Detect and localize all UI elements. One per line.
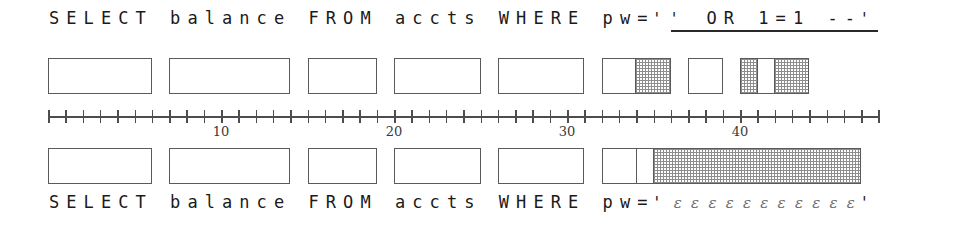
token-cell-plain	[309, 59, 376, 93]
ruler-tick-17	[342, 110, 344, 123]
token-from	[308, 148, 377, 184]
epsilon-glyph: ε	[674, 194, 682, 212]
token-balance	[169, 58, 290, 94]
ruler-tick-11	[238, 110, 240, 123]
bottom-query-char: c	[257, 192, 267, 212]
top-query-char: R	[724, 8, 734, 28]
ruler-tick-15	[308, 110, 310, 123]
ruler-tick-35	[654, 110, 656, 123]
token-where	[498, 148, 585, 184]
token-cell-plain	[49, 59, 151, 93]
token-cell-shaded	[741, 59, 758, 93]
ruler-tick-37	[688, 110, 690, 123]
top-query-char: =	[637, 8, 647, 28]
ruler-tick-32	[602, 110, 604, 123]
top-query-char: '	[862, 8, 867, 28]
ruler-tick-7	[169, 110, 171, 123]
top-query-char: W	[499, 8, 509, 28]
ruler-tick-24	[463, 110, 465, 123]
bottom-query-char: E	[533, 192, 543, 212]
ruler-tick-46	[844, 110, 846, 123]
top-query-char: R	[551, 8, 561, 28]
bottom-query-char: c	[412, 192, 422, 212]
top-query-char: '	[672, 8, 677, 28]
ruler-tick-23	[446, 110, 448, 123]
bottom-query-char: E	[101, 192, 111, 212]
injected-payload-underline	[671, 30, 879, 32]
ruler-label-20: 20	[386, 124, 403, 139]
top-query-char: s	[464, 8, 474, 28]
token-pw-eq-literal	[602, 148, 862, 184]
bottom-query-char: s	[464, 192, 474, 212]
top-query-char: F	[309, 8, 319, 28]
ruler-tick-45	[827, 110, 829, 123]
bottom-open-quote: '	[655, 192, 660, 212]
ruler-tick-4	[117, 110, 119, 123]
ruler-tick-14	[290, 110, 292, 123]
token-cell-plain	[309, 149, 376, 183]
ruler-tick-8	[186, 110, 188, 123]
ruler-tick-41	[757, 110, 759, 123]
epsilon-glyph: ε	[760, 194, 768, 212]
ruler-tick-42	[775, 110, 777, 123]
token-cell-shaded	[654, 149, 860, 183]
top-query-char: n	[239, 8, 249, 28]
ruler-tick-20	[394, 110, 396, 123]
ruler-tick-30	[567, 110, 569, 123]
top-query-char: c	[257, 8, 267, 28]
bottom-query-char: E	[66, 192, 76, 212]
ruler-tick-10	[221, 110, 223, 123]
token-one-eq-one-comment	[740, 58, 809, 94]
token-cell-plain	[499, 149, 584, 183]
character-position-ruler: 10203040	[0, 108, 975, 142]
top-query-char: t	[447, 8, 457, 28]
epsilon-glyph: ε	[708, 194, 716, 212]
token-cell-plain	[170, 149, 289, 183]
bottom-query-char: a	[222, 192, 232, 212]
epsilon-glyph: ε	[778, 194, 786, 212]
ruler-tick-39	[723, 110, 725, 123]
ruler-tick-40	[740, 110, 742, 123]
ruler-tick-48	[878, 110, 880, 123]
bottom-query-char: S	[49, 192, 59, 212]
token-pw-eq-quote	[602, 58, 671, 94]
top-query-char: 1	[758, 8, 768, 28]
bottom-query-char: w	[620, 192, 630, 212]
top-query-char: S	[49, 8, 59, 28]
top-query-char: c	[430, 8, 440, 28]
top-query-char: w	[620, 8, 630, 28]
top-query-char: -	[828, 8, 838, 28]
token-cell-plain	[758, 59, 775, 93]
ruler-tick-47	[861, 110, 863, 123]
bottom-query-char: n	[239, 192, 249, 212]
ruler-tick-43	[792, 110, 794, 123]
ruler-tick-31	[584, 110, 586, 123]
top-query-char: O	[343, 8, 353, 28]
top-query-char: M	[360, 8, 370, 28]
top-query-char: e	[274, 8, 284, 28]
ruler-tick-38	[705, 110, 707, 123]
top-query-char: c	[412, 8, 422, 28]
token-balance	[169, 148, 290, 184]
ruler-tick-27	[515, 110, 517, 123]
token-where	[498, 58, 585, 94]
token-select	[48, 58, 152, 94]
top-query-char: L	[84, 8, 94, 28]
ruler-tick-28	[532, 110, 534, 123]
top-query-char: -	[845, 8, 855, 28]
epsilon-glyph: ε	[830, 194, 838, 212]
bottom-query-char: C	[118, 192, 128, 212]
top-query-char: a	[187, 8, 197, 28]
bottom-query-char: H	[516, 192, 526, 212]
ruler-label-40: 40	[732, 124, 749, 139]
bottom-query-char: =	[637, 192, 647, 212]
ruler-tick-19	[377, 110, 379, 123]
bottom-query-char: R	[326, 192, 336, 212]
top-query-char: '	[655, 8, 660, 28]
epsilon-glyph: ε	[795, 194, 803, 212]
token-cell-shaded	[636, 59, 670, 93]
bottom-query-char: T	[136, 192, 146, 212]
ruler-tick-2	[83, 110, 85, 123]
ruler-tick-0	[48, 110, 50, 123]
epsilon-glyph: ε	[726, 194, 734, 212]
